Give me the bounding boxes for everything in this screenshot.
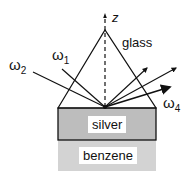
glass-label: glass bbox=[122, 36, 152, 49]
omega2-symbol: ω bbox=[9, 56, 21, 73]
silver-label: silver bbox=[88, 116, 126, 133]
omega1-subscript: 1 bbox=[64, 55, 70, 66]
focal-point bbox=[103, 105, 107, 109]
omega1-symbol: ω bbox=[52, 46, 64, 63]
beam-omega1 bbox=[62, 69, 105, 107]
omega4-subscript: 4 bbox=[175, 103, 181, 114]
omega2-label: ω2 bbox=[9, 57, 26, 76]
benzene-label: benzene bbox=[79, 147, 137, 164]
omega1-label: ω1 bbox=[52, 47, 69, 66]
beam-omega4 bbox=[105, 87, 170, 107]
omega4-label: ω4 bbox=[163, 95, 180, 114]
beam-omega2 bbox=[33, 72, 105, 107]
diagram: z glass ω2 ω1 ω4 silver benzene bbox=[0, 0, 194, 183]
omega4-symbol: ω bbox=[163, 94, 175, 111]
z-axis-label: z bbox=[112, 11, 119, 24]
omega2-subscript: 2 bbox=[21, 65, 27, 76]
z-axis-arrow-icon bbox=[103, 13, 107, 18]
